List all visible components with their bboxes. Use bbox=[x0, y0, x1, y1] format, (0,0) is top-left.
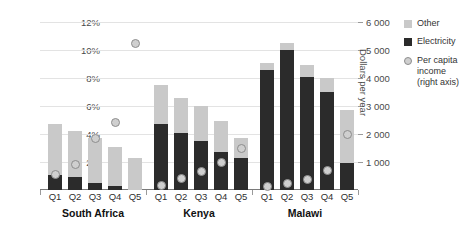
legend-item-electricity: Electricity bbox=[404, 36, 463, 47]
bar-south-africa-q4[interactable] bbox=[108, 147, 122, 190]
bar-south-africa-q3[interactable] bbox=[88, 138, 102, 190]
legend-label-per-capita-income: Per capita income (right axis) bbox=[417, 55, 463, 89]
bar-segment-electricity bbox=[280, 50, 294, 190]
x-axis-label-q5: Q5 bbox=[336, 192, 358, 202]
bar-segment-other bbox=[108, 147, 122, 186]
bar-kenya-q4[interactable] bbox=[214, 121, 228, 190]
bar-segment-electricity bbox=[194, 141, 208, 190]
per-capita-income-marker[interactable] bbox=[263, 182, 272, 191]
axis-group-separator bbox=[146, 190, 147, 195]
bar-segment-other bbox=[128, 158, 142, 190]
per-capita-income-marker[interactable] bbox=[51, 170, 60, 179]
bar-segment-electricity bbox=[260, 70, 274, 190]
per-capita-income-marker[interactable] bbox=[71, 160, 80, 169]
x-axis-label-q5: Q5 bbox=[230, 192, 252, 202]
y-axis-right-tick: 2 000 bbox=[366, 130, 406, 140]
x-axis-label-q2: Q2 bbox=[276, 192, 298, 202]
x-axis-label-q2: Q2 bbox=[64, 192, 86, 202]
y-axis-right-tick: 1 000 bbox=[366, 158, 406, 168]
x-axis-label-q4: Q4 bbox=[316, 192, 338, 202]
y-axis-right-tickmark bbox=[358, 162, 363, 163]
legend-label-other: Other bbox=[417, 18, 440, 29]
chart-legend: Other Electricity Per capita income (rig… bbox=[404, 18, 463, 95]
per-capita-income-marker[interactable] bbox=[177, 174, 186, 183]
bar-segment-other bbox=[260, 63, 274, 70]
per-capita-income-marker[interactable] bbox=[157, 181, 166, 190]
bar-segment-other bbox=[48, 124, 62, 174]
x-axis-label-q2: Q2 bbox=[170, 192, 192, 202]
legend-item-other: Other bbox=[404, 18, 463, 29]
bar-segment-electricity bbox=[320, 92, 334, 190]
x-axis-label-q5: Q5 bbox=[124, 192, 146, 202]
x-axis-label-q3: Q3 bbox=[190, 192, 212, 202]
plot-area bbox=[40, 22, 358, 190]
bar-segment-other bbox=[194, 106, 208, 141]
legend-label-electricity: Electricity bbox=[417, 36, 456, 47]
bar-group-malawi bbox=[252, 22, 358, 190]
y-axis-right-tickmark bbox=[358, 22, 363, 23]
bar-segment-electricity bbox=[108, 186, 122, 190]
x-axis-label-q1: Q1 bbox=[44, 192, 66, 202]
x-axis-label-q4: Q4 bbox=[104, 192, 126, 202]
per-capita-income-marker[interactable] bbox=[197, 167, 206, 176]
bar-segment-other bbox=[68, 131, 82, 177]
bar-segment-other bbox=[154, 85, 168, 124]
x-axis-label-q3: Q3 bbox=[84, 192, 106, 202]
y-axis-right-title: Dollars per year bbox=[356, 24, 370, 142]
axis-tick-start bbox=[40, 190, 41, 195]
bar-kenya-q3[interactable] bbox=[194, 106, 208, 190]
bar-segment-other bbox=[214, 121, 228, 152]
legend-swatch-other-icon bbox=[404, 20, 412, 28]
per-capita-income-marker[interactable] bbox=[343, 130, 352, 139]
legend-swatch-circle-marker-icon bbox=[404, 57, 412, 65]
per-capita-income-marker[interactable] bbox=[283, 179, 292, 188]
x-axis-label-q1: Q1 bbox=[256, 192, 278, 202]
legend-swatch-electricity-icon bbox=[404, 38, 412, 46]
bar-segment-electricity bbox=[300, 77, 314, 190]
bar-segment-other bbox=[300, 65, 314, 76]
x-axis-label-q3: Q3 bbox=[296, 192, 318, 202]
y-axis-right-tick: 3 000 bbox=[366, 102, 406, 112]
per-capita-income-marker[interactable] bbox=[111, 118, 120, 127]
y-axis-right-tick: 6 000 bbox=[366, 18, 406, 28]
bar-south-africa-q1[interactable] bbox=[48, 124, 62, 190]
x-axis-group-label: South Africa bbox=[40, 208, 146, 219]
axis-group-separator bbox=[252, 190, 253, 195]
x-axis-label-q1: Q1 bbox=[150, 192, 172, 202]
per-capita-income-marker[interactable] bbox=[237, 144, 246, 153]
y-axis-right-tick: 5 000 bbox=[366, 46, 406, 56]
bar-south-africa-q5[interactable] bbox=[128, 158, 142, 190]
x-axis-group-label: Kenya bbox=[146, 208, 252, 219]
legend-item-per-capita-income: Per capita income (right axis) bbox=[404, 55, 463, 89]
per-capita-income-marker[interactable] bbox=[91, 134, 100, 143]
bar-segment-electricity bbox=[68, 177, 82, 190]
per-capita-income-marker[interactable] bbox=[131, 39, 140, 48]
bar-segment-other bbox=[174, 98, 188, 133]
bar-group-south-africa bbox=[40, 22, 146, 190]
bar-group-kenya bbox=[146, 22, 252, 190]
bar-kenya-q1[interactable] bbox=[154, 85, 168, 190]
x-axis-group-label: Malawi bbox=[252, 208, 358, 219]
bar-segment-electricity bbox=[88, 183, 102, 190]
x-axis-label-q4: Q4 bbox=[210, 192, 232, 202]
bar-segment-other bbox=[88, 138, 102, 183]
y-axis-right-tick: 4 000 bbox=[366, 74, 406, 84]
bar-malawi-q5[interactable] bbox=[340, 110, 354, 190]
bar-malawi-q1[interactable] bbox=[260, 63, 274, 190]
bar-malawi-q2[interactable] bbox=[280, 43, 294, 190]
axis-tick-end bbox=[358, 190, 359, 195]
bar-segment-electricity bbox=[340, 163, 354, 190]
bar-segment-other bbox=[320, 78, 334, 92]
per-capita-income-marker[interactable] bbox=[323, 166, 332, 175]
bar-segment-electricity bbox=[234, 158, 248, 190]
per-capita-income-marker[interactable] bbox=[303, 175, 312, 184]
bar-segment-other bbox=[280, 43, 294, 50]
per-capita-income-marker[interactable] bbox=[217, 158, 226, 167]
bar-malawi-q3[interactable] bbox=[300, 65, 314, 190]
chart-container: 12% 10% 8% 6% 4% 2% 6 000 5 000 4 000 3 … bbox=[0, 0, 463, 238]
